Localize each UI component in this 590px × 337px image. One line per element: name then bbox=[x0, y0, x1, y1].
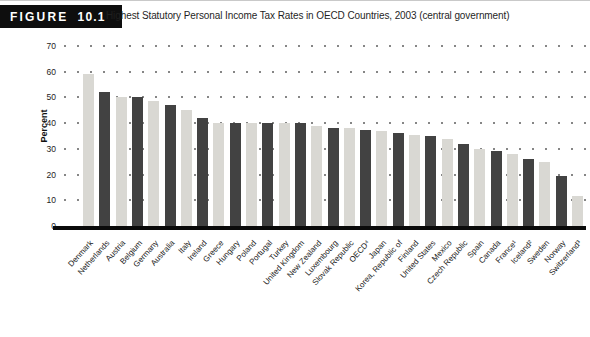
bar-belgium bbox=[132, 97, 143, 226]
bar-denmark bbox=[83, 74, 94, 226]
bar-canada bbox=[491, 151, 502, 226]
x-axis-labels: DenmarkNetherlandsAustriaBelgiumGermanyA… bbox=[62, 234, 585, 324]
bar-new-zealand bbox=[311, 126, 322, 226]
bar-poland bbox=[246, 123, 257, 226]
bar-greece bbox=[213, 123, 224, 226]
bar-czech-republic bbox=[458, 144, 469, 226]
plot-area bbox=[62, 46, 585, 226]
bar-portugal bbox=[262, 123, 273, 226]
bar-luxembourg bbox=[328, 128, 339, 226]
figure-panel: FIGURE 10.1 Highest Statutory Personal I… bbox=[0, 0, 590, 337]
bar-netherlands bbox=[99, 92, 110, 226]
bar-united-states bbox=[425, 136, 436, 226]
bar-united-kingdom bbox=[295, 123, 306, 226]
bar-hungary bbox=[230, 123, 241, 226]
bar-mexico bbox=[442, 139, 453, 226]
y-tick-label-60: 60 bbox=[26, 67, 56, 77]
bar-ireland bbox=[197, 118, 208, 226]
bar-austria bbox=[116, 97, 127, 226]
figure-tab-number: 10.1 bbox=[78, 10, 106, 24]
y-tick-label-40: 40 bbox=[26, 118, 56, 128]
y-tick-label-50: 50 bbox=[26, 92, 56, 102]
bar-germany bbox=[148, 101, 159, 226]
bar-australia bbox=[165, 105, 176, 226]
bar-oecd bbox=[360, 130, 371, 226]
bar-korea-republic-of bbox=[393, 133, 404, 226]
bar-finland bbox=[409, 135, 420, 226]
y-tick-label-20: 20 bbox=[26, 170, 56, 180]
y-tick-label-30: 30 bbox=[26, 144, 56, 154]
y-tick-label-10: 10 bbox=[26, 195, 56, 205]
bar-norway bbox=[556, 176, 567, 226]
bar-iceland bbox=[523, 159, 534, 226]
gridline-60 bbox=[64, 71, 587, 73]
bar-france bbox=[507, 154, 518, 226]
gridline-70 bbox=[64, 45, 587, 47]
figure-title: Highest Statutory Personal Income Tax Ra… bbox=[106, 10, 584, 21]
bar-spain bbox=[474, 149, 485, 226]
bar-switzerland bbox=[572, 196, 583, 226]
bar-turkey bbox=[279, 123, 290, 226]
bar-slovak-republic bbox=[344, 128, 355, 226]
bar-italy bbox=[181, 110, 192, 226]
bar-sweden bbox=[539, 162, 550, 226]
x-axis-line bbox=[53, 226, 586, 230]
y-tick-label-0: 0 bbox=[26, 221, 56, 231]
y-tick-label-70: 70 bbox=[26, 41, 56, 51]
bar-japan bbox=[376, 131, 387, 226]
figure-tab: FIGURE 10.1 bbox=[0, 5, 122, 28]
figure-tab-label: FIGURE bbox=[10, 10, 69, 24]
